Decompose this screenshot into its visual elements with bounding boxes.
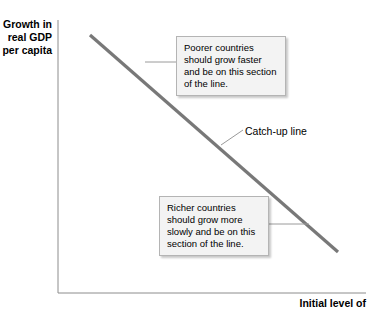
catch-up-line-label: Catch-up line bbox=[245, 125, 307, 137]
x-axis-title: Initial level of bbox=[240, 297, 366, 310]
y-axis-title: Growth in real GDP per capita bbox=[0, 18, 52, 57]
poorer-countries-callout: Poorer countries should grow faster and … bbox=[176, 36, 286, 96]
catch-up-line-figure: Growth in real GDP per capita Initial le… bbox=[0, 0, 370, 313]
catch-up-leader-line bbox=[221, 130, 243, 145]
richer-countries-callout: Richer countries should grow more slowly… bbox=[159, 196, 269, 256]
